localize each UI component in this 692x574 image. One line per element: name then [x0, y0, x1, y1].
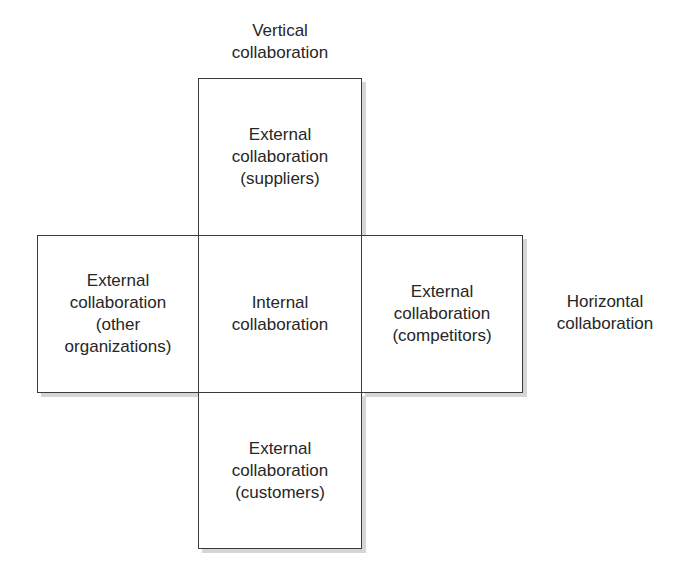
box-suppliers: External collaboration (suppliers) [198, 78, 362, 236]
vertical-collaboration-axis-label: Vertical collaboration [200, 20, 360, 64]
horizontal-collaboration-axis-label: Horizontal collaboration [530, 291, 680, 335]
box-internal-collaboration-label: Internal collaboration [232, 292, 328, 336]
box-other-organizations-label: External collaboration (other organizati… [65, 270, 172, 358]
box-customers: External collaboration (customers) [198, 392, 362, 549]
box-internal-collaboration: Internal collaboration [198, 235, 362, 393]
box-competitors: External collaboration (competitors) [361, 235, 523, 393]
box-customers-label: External collaboration (customers) [232, 438, 328, 504]
box-competitors-label: External collaboration (competitors) [392, 281, 491, 347]
box-suppliers-label: External collaboration (suppliers) [232, 124, 328, 190]
box-other-organizations: External collaboration (other organizati… [37, 235, 199, 393]
